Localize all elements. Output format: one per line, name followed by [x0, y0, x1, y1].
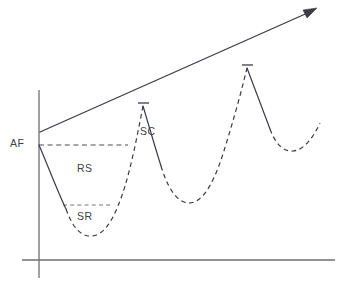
trend-arrow-head: [303, 8, 317, 18]
label-af: AF: [10, 138, 24, 149]
label-sr: SR: [77, 211, 92, 222]
label-sc: SC: [140, 126, 155, 137]
trend-arrow-line: [40, 11, 312, 132]
performance-recovery-segment-3: [270, 123, 320, 151]
label-rs: RS: [77, 163, 92, 174]
performance-drop-segment-3: [247, 68, 270, 129]
diagram-canvas: AF RS SR SC: [0, 0, 345, 292]
diagram-graphic: [0, 0, 345, 292]
performance-drop-segment-1: [39, 145, 66, 209]
performance-recovery-segment-2: [161, 68, 247, 203]
